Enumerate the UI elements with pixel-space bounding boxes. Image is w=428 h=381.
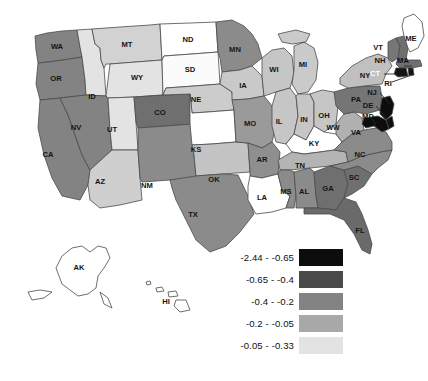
legend-swatch [299, 293, 343, 310]
legend-row: -2.44 - -0.65 [228, 246, 348, 268]
label-NM: NM [141, 181, 153, 190]
label-NJ: NJ [367, 88, 377, 97]
label-RI: RI [384, 79, 392, 88]
label-AK: AK [74, 263, 85, 272]
label-LA: LA [257, 193, 268, 202]
label-NH: NH [375, 56, 386, 65]
label-NY: NY [360, 71, 371, 80]
label-NC: NC [355, 150, 366, 159]
legend-swatch [299, 271, 343, 288]
label-TX: TX [188, 210, 198, 219]
label-AZ: AZ [95, 177, 105, 186]
label-CT: CT [370, 69, 380, 78]
label-NV: NV [71, 123, 82, 132]
label-AL: AL [299, 187, 309, 196]
map-figure: WA OR ID MT WY CA NV UT AZ CO NM TX ND S… [0, 0, 428, 381]
label-IA: IA [239, 81, 247, 90]
label-HI: HI [162, 297, 170, 306]
legend-row: -0.4 - -0.2 [228, 290, 348, 312]
label-MN: MN [229, 45, 241, 54]
label-IN: IN [300, 115, 308, 124]
legend-label: -0.4 - -0.2 [228, 296, 299, 307]
label-KY: KY [309, 139, 320, 148]
label-DE: DE [363, 101, 374, 110]
label-OK: OK [208, 175, 220, 184]
label-MA: MA [397, 56, 409, 65]
label-MT: MT [122, 40, 133, 49]
label-MO: MO [244, 119, 256, 128]
label-WA: WA [51, 42, 64, 51]
legend-swatch [299, 337, 343, 354]
legend-row: -0.2 - -0.05 [228, 312, 348, 334]
label-TN: TN [295, 161, 305, 170]
label-IL: IL [276, 117, 283, 126]
label-NE: NE [191, 95, 202, 104]
label-UT: UT [107, 125, 117, 134]
state-RI[interactable] [408, 68, 414, 76]
label-FL: FL [355, 226, 365, 235]
label-MD: MD [362, 112, 374, 121]
legend-swatch [299, 249, 343, 266]
state-NM[interactable] [138, 124, 196, 182]
label-OR: OR [50, 74, 62, 83]
legend-row: -0.05 - -0.33 [228, 334, 348, 356]
label-CA: CA [43, 150, 54, 159]
label-VT: VT [373, 43, 383, 52]
label-WY: WY [131, 73, 143, 82]
label-ID: ID [88, 92, 96, 101]
label-OH: OH [318, 111, 329, 120]
state-AK[interactable] [28, 246, 112, 308]
label-KS: KS [191, 145, 202, 154]
legend-label: -0.65 - -0.4 [228, 274, 299, 285]
legend: -2.44 - -0.65 -0.65 - -0.4 -0.4 - -0.2 -… [228, 246, 348, 356]
label-WV: WW [326, 124, 340, 131]
label-SD: SD [185, 65, 196, 74]
legend-label: -0.2 - -0.05 [228, 318, 299, 329]
label-GA: GA [322, 184, 334, 193]
us-choropleth-svg: WA OR ID MT WY CA NV UT AZ CO NM TX ND S… [0, 0, 428, 381]
label-ME: ME [405, 34, 416, 43]
label-AR: AR [257, 155, 268, 164]
state-UT[interactable] [108, 97, 138, 150]
label-MS: MS [280, 187, 291, 196]
state-TX[interactable] [170, 174, 254, 252]
legend-label: -2.44 - -0.65 [228, 252, 299, 263]
label-CO: CO [154, 108, 165, 117]
legend-label: -0.05 - -0.33 [228, 340, 299, 351]
label-WI: WI [269, 65, 278, 74]
label-PA: PA [351, 95, 362, 104]
label-ND: ND [183, 35, 194, 44]
label-SC: SC [349, 173, 360, 182]
state-CT[interactable] [394, 68, 408, 77]
label-MI: MI [299, 60, 307, 69]
legend-row: -0.65 - -0.4 [228, 268, 348, 290]
label-VA: VA [351, 128, 362, 137]
legend-swatch [299, 315, 343, 332]
